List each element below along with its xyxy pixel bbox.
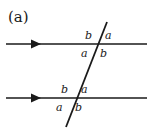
- angle-label-upper-bottom-left: a: [81, 48, 88, 59]
- upper-line-arrowhead-icon: [31, 39, 41, 48]
- angle-label-upper-top-left: b: [85, 30, 92, 41]
- figure-caption: (a): [8, 10, 29, 25]
- angle-label-lower-bottom-left: a: [56, 102, 63, 113]
- lower-line-arrowhead-icon: [31, 93, 41, 102]
- angle-label-upper-top-right: a: [105, 30, 112, 41]
- angle-label-upper-bottom-right: b: [100, 48, 107, 59]
- angle-label-lower-bottom-right: b: [75, 102, 82, 113]
- geometry-figure: (a) b a a b b a a b: [0, 0, 152, 130]
- angle-label-lower-top-left: b: [61, 84, 68, 95]
- angle-label-lower-top-right: a: [81, 84, 88, 95]
